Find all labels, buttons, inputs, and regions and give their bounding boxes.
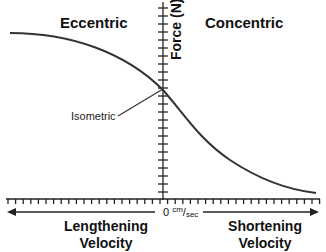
zero-value: 0	[163, 206, 169, 218]
isometric-leader-line	[118, 89, 163, 116]
x-origin-label: 0 cm/sec	[163, 205, 198, 219]
y-axis-label: Force (N)	[168, 0, 184, 60]
shortening-arrow	[203, 208, 319, 216]
unit-denominator: sec	[186, 210, 198, 219]
shortening-velocity-label: Shortening Velocity	[210, 218, 320, 252]
shortening-line1: Shortening	[210, 218, 320, 235]
unit-numerator: cm	[172, 205, 183, 214]
concentric-label: Concentric	[205, 14, 283, 31]
shortening-line2: Velocity	[210, 235, 320, 252]
lengthening-velocity-label: Lengthening Velocity	[46, 218, 166, 252]
isometric-label: Isometric	[71, 110, 116, 122]
lengthening-arrow	[7, 208, 155, 216]
lengthening-line1: Lengthening	[46, 218, 166, 235]
eccentric-label: Eccentric	[60, 14, 128, 31]
lengthening-line2: Velocity	[46, 235, 166, 252]
y-axis	[158, 2, 168, 200]
x-axis-ticks	[8, 199, 320, 204]
